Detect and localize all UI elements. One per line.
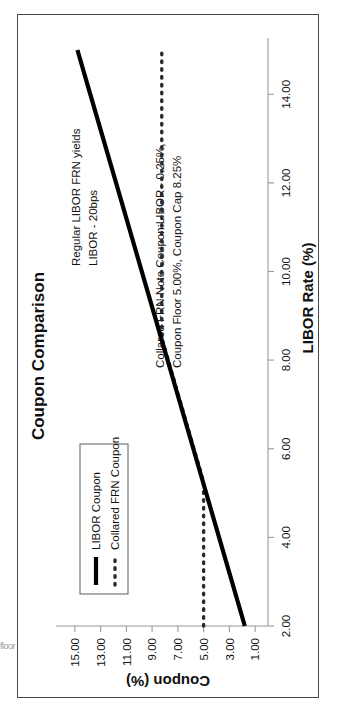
chart-legend: LIBOR Coupon Collared FRN Coupon — [80, 437, 128, 594]
y-tick-label: 15.00 — [69, 638, 81, 667]
annotation-collared-line2: Coupon Floor 5.00%, Coupon Cap 8.25% — [171, 156, 183, 368]
y-tick-label: 1.00 — [249, 638, 261, 660]
x-tick-label: 14.00 — [280, 80, 292, 109]
rotated-chart-wrapper: Coupon Comparison Regular LIBOR FRN yiel… — [18, 14, 320, 698]
x-tick-label: 4.00 — [280, 526, 292, 548]
x-tick-label: 8.00 — [280, 349, 292, 371]
y-tick-label: 3.00 — [223, 638, 235, 660]
y-tick-label: 11.00 — [120, 638, 132, 666]
x-axis-title: LIBOR Rate (%) — [299, 243, 316, 354]
x-tick-label: 2.00 — [280, 615, 292, 637]
chart-title: Coupon Comparison — [29, 272, 48, 440]
y-axis-tick-labels: 1.00 3.00 5.00 7.00 9.00 11.00 13.00 15.… — [69, 638, 261, 667]
edge-artifact-text: floor — [0, 641, 15, 651]
y-tick-label: 7.00 — [172, 638, 184, 660]
figure-page: floor Coupon Comparison Regular LIBOR FR… — [0, 0, 337, 712]
coupon-comparison-chart: Coupon Comparison Regular LIBOR FRN yiel… — [18, 14, 320, 698]
y-axis-ticks — [74, 626, 254, 632]
legend-label: Collared FRN Coupon — [109, 437, 121, 550]
legend-label: LIBOR Coupon — [90, 472, 102, 550]
x-axis-tick-labels: 2.00 4.00 6.00 8.00 10.00 12.00 14.00 — [280, 80, 292, 637]
x-tick-label: 12.00 — [280, 169, 292, 198]
y-tick-label: 9.00 — [146, 638, 158, 660]
y-tick-label: 5.00 — [197, 638, 209, 660]
annotation-regular-line1: Regular LIBOR FRN yields — [70, 128, 82, 266]
y-axis-title: Coupon (%) — [125, 673, 209, 690]
annotation-regular-line2: LIBOR - 20bps — [87, 190, 99, 266]
x-tick-label: 6.00 — [280, 438, 292, 460]
x-tick-label: 10.00 — [280, 257, 292, 286]
y-tick-label: 13.00 — [94, 638, 106, 667]
